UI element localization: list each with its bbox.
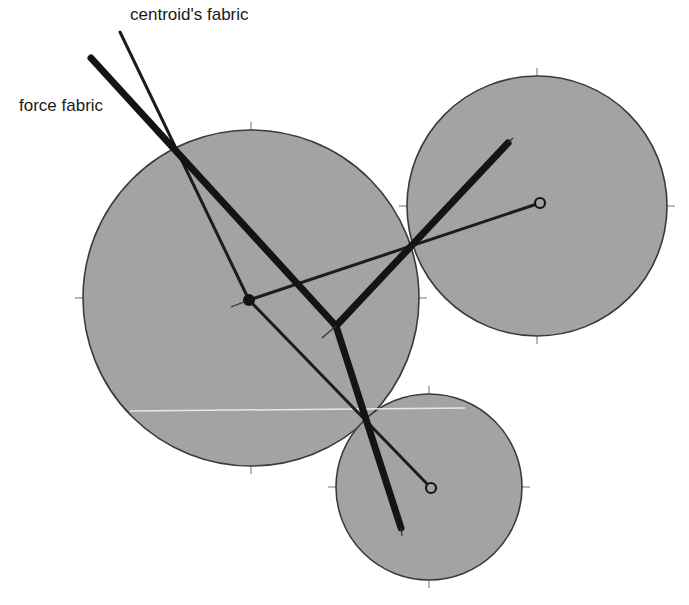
centroid-marker-open-icon [426,483,436,493]
centroid-fabric-label: centroid's fabric [130,6,249,23]
diagram-canvas [0,0,689,605]
centroid-marker-filled-icon [243,294,255,306]
force-fabric-label: force fabric [19,97,103,114]
fabric-diagram: centroid's fabric force fabric [0,0,689,605]
particles [75,68,675,588]
centroid-marker-open-icon [535,198,545,208]
